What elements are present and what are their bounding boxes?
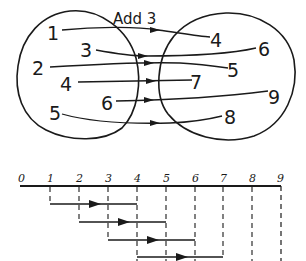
- domain-label-4: 4: [60, 73, 72, 95]
- tick-label-8: 8: [249, 172, 256, 185]
- shift-arrow-4-to-7: [137, 253, 223, 261]
- range-label-7: 7: [190, 71, 202, 93]
- tick-label-6: 6: [192, 172, 199, 185]
- tick-label-4: 4: [133, 172, 141, 185]
- tick-label-2: 2: [75, 172, 83, 185]
- domain-label-1: 1: [47, 22, 59, 44]
- shift-arrow-1-to-4: [50, 200, 137, 208]
- number-line-diagram: 0 1 2 3 4 5 6 7 8 9: [18, 172, 284, 261]
- tick-label-3: 3: [105, 172, 112, 185]
- domain-label-2: 2: [32, 57, 44, 79]
- tick-label-1: 1: [47, 172, 54, 185]
- domain-label-6: 6: [101, 92, 113, 114]
- range-label-9: 9: [268, 86, 280, 108]
- arrow-2-to-5: [50, 63, 228, 68]
- tick-label-9: 9: [277, 172, 284, 185]
- shift-arrow-3-to-6: [108, 236, 195, 244]
- mapping-diagram: Add 3 1 3 2 4: [17, 10, 295, 140]
- domain-labels: 1 3 2 4 6 5: [32, 22, 113, 124]
- tick-labels: 0 1 2 3 4 5 6 7 8 9: [18, 172, 284, 185]
- tick-label-5: 5: [163, 172, 170, 185]
- arrow-4-to-7: [78, 80, 192, 82]
- range-label-5: 5: [227, 59, 239, 81]
- add-three-function-figure: Add 3 1 3 2 4: [0, 0, 306, 261]
- arrow-1-to-4: [62, 27, 158, 30]
- mapping-title: Add 3: [113, 10, 156, 28]
- domain-label-3: 3: [80, 39, 92, 61]
- shift-arrow-2-to-5: [79, 218, 166, 226]
- range-label-4: 4: [210, 29, 222, 51]
- tick-label-7: 7: [220, 172, 227, 185]
- domain-label-5: 5: [49, 102, 61, 124]
- range-label-6: 6: [258, 38, 270, 60]
- tick-label-0: 0: [18, 172, 25, 185]
- range-labels: 4 6 5 7 9 8: [190, 29, 280, 128]
- range-label-8: 8: [224, 106, 236, 128]
- arrow-5-to-8: [62, 114, 222, 123]
- dashed-guides: [50, 187, 252, 261]
- arrow-3-to-6: [96, 48, 256, 56]
